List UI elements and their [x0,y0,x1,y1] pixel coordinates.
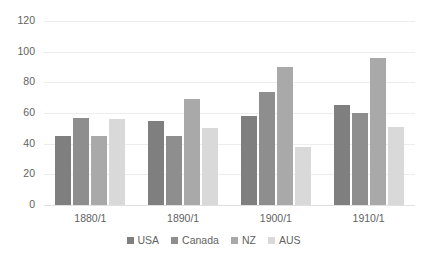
legend-item-usa[interactable]: USA [127,234,160,246]
y-axis-tick-label: 40 [1,138,35,149]
bar-aus-1910-1[interactable] [388,127,404,205]
y-axis-tick-label: 120 [1,15,35,26]
bar-chart: 020406080100120 1880/11890/11900/11910/1… [0,0,427,259]
bar-group [334,18,404,205]
y-axis-tick-label: 100 [1,46,35,57]
axis-baseline [44,205,415,206]
bar-nz-1880-1[interactable] [91,136,107,205]
legend-swatch-icon [171,237,178,244]
y-axis-tick-label: 60 [1,107,35,118]
legend-swatch-icon [127,237,134,244]
bar-group [55,18,125,205]
bar-usa-1910-1[interactable] [334,105,350,205]
legend-swatch-icon [268,237,275,244]
legend-item-canada[interactable]: Canada [171,234,219,246]
y-axis-tick-label: 0 [1,199,35,210]
bar-canada-1900-1[interactable] [259,92,275,205]
legend-item-aus[interactable]: AUS [268,234,301,246]
x-axis-tick-label: 1910/1 [322,212,415,224]
bar-canada-1880-1[interactable] [73,118,89,205]
y-axis-tick-label: 80 [1,76,35,87]
chart-legend: USACanadaNZAUS [0,234,427,246]
bar-group [148,18,218,205]
bar-usa-1880-1[interactable] [55,136,71,205]
bar-aus-1890-1[interactable] [202,128,218,205]
bar-canada-1910-1[interactable] [352,113,368,205]
bar-aus-1900-1[interactable] [295,147,311,205]
bar-aus-1880-1[interactable] [109,119,125,205]
bar-group [241,18,311,205]
bar-nz-1890-1[interactable] [184,99,200,205]
bar-canada-1890-1[interactable] [166,136,182,205]
bar-nz-1910-1[interactable] [370,58,386,205]
legend-label: AUS [279,234,301,246]
legend-item-nz[interactable]: NZ [231,234,256,246]
legend-label: USA [138,234,160,246]
legend-label: Canada [182,234,219,246]
x-axis-tick-label: 1880/1 [44,212,137,224]
legend-swatch-icon [231,237,238,244]
bar-nz-1900-1[interactable] [277,67,293,205]
x-axis-tick-label: 1900/1 [230,212,323,224]
legend-label: NZ [242,234,256,246]
x-axis-tick-label: 1890/1 [137,212,230,224]
bar-usa-1900-1[interactable] [241,116,257,205]
bar-usa-1890-1[interactable] [148,121,164,205]
y-axis-tick-label: 20 [1,168,35,179]
bar-series-container [44,18,415,205]
